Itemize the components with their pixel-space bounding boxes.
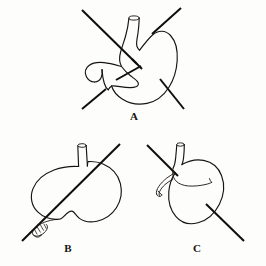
panel-b-esophagus-lumen: [78, 144, 86, 148]
panel-b-duodenum-lower-wall: [41, 224, 48, 235]
panel-a-axis-lower-left: [82, 89, 106, 109]
panel-c-esophagus-wall-left: [173, 145, 177, 168]
panel-c-group: [147, 143, 244, 241]
panel-a-axis-upper-right: [152, 8, 181, 34]
panel-a-label: A: [124, 111, 144, 122]
panel-a-esophagus-lumen: [129, 16, 139, 20]
panel-b-duodenum-hatch-3: [44, 224, 46, 228]
panel-c-label: C: [187, 243, 207, 254]
panel-a-duodenum-return: [108, 86, 111, 90]
panel-c-axis-upper: [147, 145, 178, 176]
panel-b-duodenum-hatch-4: [34, 229, 37, 234]
figure-root: A B C: [0, 0, 266, 266]
panel-c-axis-lower: [206, 204, 244, 241]
panel-c-lesser-curvature-fold: [173, 168, 212, 186]
panel-a-duodenum-lower: [95, 70, 103, 82]
panel-b-group: [22, 144, 121, 241]
panel-c-fold-tip: [209, 179, 211, 183]
panel-b-esophagus-wall-left: [78, 146, 79, 167]
panel-a-esophagus-wall-left: [120, 18, 129, 66]
panel-b-duodenum-hatch-1: [37, 227, 40, 233]
anatomy-figure-svg: [0, 0, 266, 266]
panel-b-label: B: [58, 243, 78, 254]
panel-b-stomach-outline: [31, 162, 121, 222]
panel-a-axis-pylorus-segment: [116, 66, 141, 80]
panel-c-esophagus-wall-right: [182, 145, 184, 165]
panel-a-duodenum-descending: [102, 70, 108, 90]
panel-a-greater-curvature: [112, 31, 178, 104]
panel-a-group: [82, 8, 184, 109]
panel-a-esophagus-wall-right: [137, 18, 140, 50]
panel-b-duodenum-hatch-2: [41, 225, 44, 230]
panel-c-esophagus-lumen: [177, 143, 185, 146]
